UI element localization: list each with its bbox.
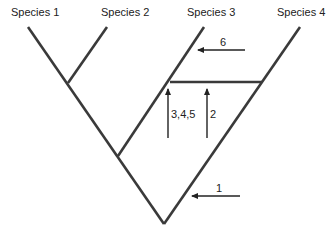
arrow-3-4-5-label: 3,4,5 <box>171 108 195 120</box>
phylogenetic-tree <box>0 0 331 238</box>
arrow-2-label: 2 <box>210 108 216 120</box>
branch-species-3 <box>118 27 204 156</box>
species-2-label: Species 2 <box>101 6 149 18</box>
species-4-label: Species 4 <box>277 6 325 18</box>
branch-species-2 <box>68 27 107 83</box>
arrow-6-label: 6 <box>220 36 226 48</box>
branch-species-1 <box>28 27 164 224</box>
species-1-label: Species 1 <box>11 6 59 18</box>
species-3-label: Species 3 <box>187 6 235 18</box>
arrow-1-label: 1 <box>216 182 222 194</box>
